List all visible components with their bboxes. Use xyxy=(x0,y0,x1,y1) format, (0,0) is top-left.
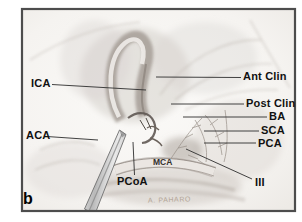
label-aca: ACA xyxy=(26,130,50,141)
anatomical-illustration xyxy=(0,0,302,222)
figure-panel: ICA ACA PCoA Ant Clin Post Clin BA SCA P… xyxy=(0,0,302,222)
label-ant-clin: Ant Clin xyxy=(243,71,287,82)
artist-signature: A. PAHARO xyxy=(148,195,191,203)
label-sca: SCA xyxy=(261,125,285,136)
panel-letter: b xyxy=(23,191,33,207)
sketch-group xyxy=(23,10,294,214)
label-iii: III xyxy=(255,177,265,188)
label-ica: ICA xyxy=(31,78,51,89)
label-mca: MCA xyxy=(153,158,172,167)
label-ba: BA xyxy=(269,111,285,122)
label-post-clin: Post Clin xyxy=(246,98,295,109)
leader-line-ant-clin xyxy=(156,77,241,78)
label-pca: PCA xyxy=(258,138,282,149)
label-pcoa: PCoA xyxy=(117,176,148,187)
